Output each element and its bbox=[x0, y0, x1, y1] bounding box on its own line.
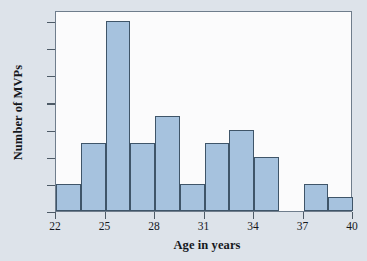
y-axis-tick bbox=[47, 103, 55, 104]
y-axis-tick bbox=[47, 158, 55, 159]
y-axis-tick bbox=[47, 22, 55, 23]
x-axis-tick-label: 37 bbox=[283, 220, 323, 232]
y-axis-title: Number of MVPs bbox=[11, 43, 26, 183]
y-axis-tick bbox=[47, 76, 55, 77]
x-axis-tick bbox=[352, 212, 353, 219]
plot-frame bbox=[55, 11, 352, 212]
histogram-bar bbox=[81, 143, 106, 211]
x-axis-tick-label: 25 bbox=[85, 220, 125, 232]
histogram-bar bbox=[56, 184, 81, 211]
x-axis-tick bbox=[204, 212, 205, 219]
histogram-bar bbox=[130, 143, 155, 211]
y-axis-tick bbox=[47, 49, 55, 50]
x-axis-title: Age in years bbox=[62, 238, 352, 253]
x-axis-tick-label: 22 bbox=[35, 220, 75, 232]
x-axis-tick bbox=[55, 212, 56, 219]
histogram-bar bbox=[180, 184, 205, 211]
x-axis-tick bbox=[154, 212, 155, 219]
histogram-bar bbox=[254, 157, 279, 211]
histogram-bar bbox=[205, 143, 230, 211]
histogram-bar bbox=[304, 184, 329, 211]
x-axis-tick-label: 28 bbox=[134, 220, 174, 232]
histogram-bar bbox=[229, 130, 254, 211]
x-axis-tick-label: 40 bbox=[332, 220, 367, 232]
x-axis-tick-label: 31 bbox=[184, 220, 224, 232]
plot-area bbox=[56, 12, 351, 211]
y-axis-tick bbox=[47, 212, 55, 213]
x-axis-tick bbox=[105, 212, 106, 219]
histogram-figure: Number of MVPs 02468101214 2225283134374… bbox=[0, 0, 367, 261]
x-axis-tick bbox=[253, 212, 254, 219]
y-axis-tick bbox=[47, 131, 55, 132]
y-axis-tick bbox=[47, 185, 55, 186]
histogram-bar bbox=[106, 21, 131, 211]
histogram-bar bbox=[155, 116, 180, 211]
x-axis-tick bbox=[303, 212, 304, 219]
x-axis-tick-label: 34 bbox=[233, 220, 273, 232]
histogram-bar bbox=[328, 197, 353, 211]
